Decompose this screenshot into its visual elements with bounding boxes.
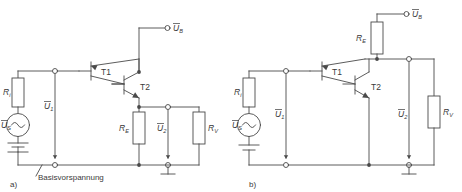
svg-text:U1: U1 [44, 101, 53, 112]
a-caption: a) [10, 180, 17, 189]
b-resistor-rv [428, 59, 440, 165]
svg-text:U1: U1 [275, 109, 284, 120]
b-label-ub: UB [412, 9, 422, 20]
circuit-b [238, 12, 441, 175]
figure-root: UB T1 T2 Ri US U1 RE U2 RV Basisvorspann… [0, 0, 462, 192]
a-label-ub: UB [173, 23, 183, 34]
a-label-u2: U2 [157, 123, 167, 134]
a-label-ri: Ri [3, 87, 11, 98]
b-transistor-t2 [343, 59, 369, 98]
a-note-basisvorspannung: Basisvorspannung [38, 173, 104, 182]
svg-text:UB: UB [412, 9, 422, 20]
b-u2-arrow [407, 57, 412, 168]
b-supply-net [377, 12, 409, 23]
a-transistor-t2 [112, 72, 139, 98]
b-bias-battery-icon [239, 137, 259, 166]
b-resistor-ri [243, 71, 255, 113]
a-label-u1: U1 [44, 101, 53, 112]
b-label-u1: U1 [275, 109, 284, 120]
a-ground-icon [161, 167, 175, 174]
a-resistor-ri [12, 71, 24, 113]
svg-text:U2: U2 [398, 109, 408, 120]
a-label-re: RE [119, 123, 129, 134]
a-resistor-re [133, 107, 145, 165]
svg-text:U2: U2 [157, 123, 167, 134]
b-label-ri: Ri [234, 87, 242, 98]
b-caption: b) [249, 180, 256, 189]
svg-text:UB: UB [173, 23, 183, 34]
b-resistor-re [371, 22, 383, 59]
b-label-u2: U2 [398, 109, 408, 120]
circuit-a [7, 26, 206, 177]
b-label-re: RE [356, 33, 366, 44]
a-label-t1: T1 [101, 67, 111, 77]
a-label-t2: T2 [140, 82, 150, 92]
b-label-rv: RV [443, 107, 454, 118]
schematic-canvas: UB T1 T2 Ri US U1 RE U2 RV Basisvorspann… [0, 0, 462, 192]
a-bias-battery-icon [8, 137, 28, 166]
b-label-t1: T1 [332, 67, 342, 77]
a-resistor-rv [193, 107, 205, 165]
a-label-rv: RV [208, 123, 219, 134]
a-u2-arrow [166, 105, 171, 168]
b-transistor-t1 [310, 59, 377, 84]
a-supply-net [139, 26, 170, 73]
b-label-t2: T2 [371, 82, 381, 92]
b-ground-icon [402, 167, 416, 174]
